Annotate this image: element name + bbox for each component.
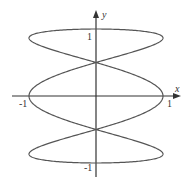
x-tick-1: 1 [167,99,172,109]
x-tick-neg-1: -1 [19,99,27,109]
y-axis [93,10,99,177]
y-arrow-icon [93,10,99,18]
y-tick-neg-1: -1 [84,163,92,173]
y-axis-label: y [102,10,106,20]
y-tick-1: 1 [87,32,92,42]
plot-area [0,0,189,184]
x-axis-label: x [175,84,179,94]
